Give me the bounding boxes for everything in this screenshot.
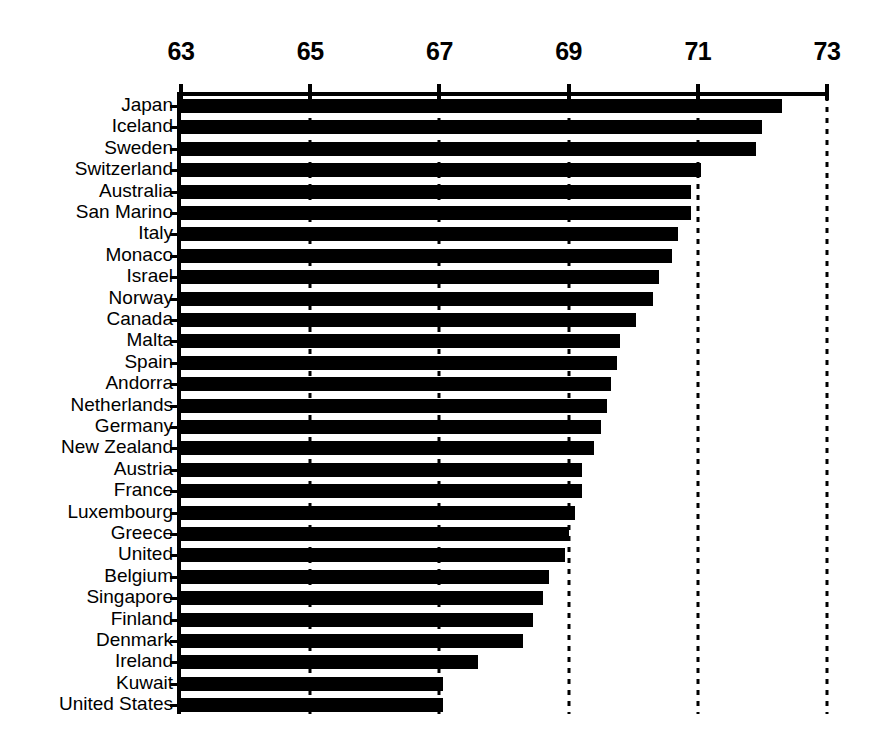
y-axis-tick — [170, 319, 181, 322]
category-label: Norway — [109, 288, 173, 307]
category-label: Switzerland — [75, 159, 173, 178]
y-axis-tick — [170, 362, 181, 365]
y-axis-tick — [170, 276, 181, 279]
category-label: Netherlands — [71, 395, 173, 414]
y-axis-tick — [170, 105, 181, 108]
bar-row — [181, 567, 827, 588]
bar — [181, 420, 601, 434]
bar-row — [181, 289, 827, 310]
y-axis-tick — [170, 640, 181, 643]
bar — [181, 377, 611, 391]
y-axis-tick — [170, 683, 181, 686]
bar — [181, 99, 782, 113]
x-axis-tick-labels: 636567697173 — [0, 36, 873, 70]
bar — [181, 506, 575, 520]
bar — [181, 677, 443, 691]
category-label: Andorra — [105, 373, 173, 392]
bar — [181, 270, 659, 284]
bar-row — [181, 481, 827, 502]
bar — [181, 206, 691, 220]
category-label: Japan — [121, 95, 173, 114]
bar — [181, 634, 523, 648]
y-axis-tick — [170, 661, 181, 664]
bar — [181, 591, 543, 605]
bar-row — [181, 331, 827, 352]
bar — [181, 570, 549, 584]
x-axis-tick-label: 71 — [684, 36, 711, 66]
y-axis-tick — [170, 576, 181, 579]
bar-row — [181, 310, 827, 331]
bar — [181, 249, 672, 263]
bar-row — [181, 182, 827, 203]
bar — [181, 227, 678, 241]
category-label: Australia — [99, 181, 173, 200]
bar-row — [181, 117, 827, 138]
category-label: Luxembourg — [67, 502, 173, 521]
category-label: Italy — [138, 223, 173, 242]
bar — [181, 313, 636, 327]
bar-row — [181, 160, 827, 181]
y-axis-tick — [170, 469, 181, 472]
bar-row — [181, 460, 827, 481]
bar-row — [181, 353, 827, 374]
x-axis-tick-label: 67 — [426, 36, 453, 66]
plot-area — [181, 92, 827, 714]
bar-chart: 636567697173 JapanIcelandSwedenSwitzerla… — [0, 0, 873, 754]
bar-row — [181, 438, 827, 459]
y-axis-tick — [170, 533, 181, 536]
bar — [181, 613, 533, 627]
category-label: Greece — [111, 523, 173, 542]
bar-row — [181, 96, 827, 117]
bar — [181, 463, 582, 477]
bar-row — [181, 503, 827, 524]
x-axis-tick-label: 65 — [297, 36, 324, 66]
bar-row — [181, 674, 827, 695]
category-label: Malta — [127, 330, 173, 349]
bar — [181, 185, 691, 199]
category-label: Monaco — [105, 245, 173, 264]
category-label: Canada — [106, 309, 173, 328]
category-label: Sweden — [104, 138, 173, 157]
x-axis-tick-label: 73 — [814, 36, 841, 66]
bar — [181, 484, 582, 498]
category-label: Denmark — [96, 630, 173, 649]
category-label: United States — [59, 694, 173, 713]
category-axis-labels: JapanIcelandSwedenSwitzerlandAustraliaSa… — [0, 92, 177, 714]
category-label: San Marino — [76, 202, 173, 221]
category-label: Israel — [127, 266, 173, 285]
bar-row — [181, 588, 827, 609]
bar — [181, 120, 762, 134]
bar-row — [181, 695, 827, 716]
category-label: United — [118, 544, 173, 563]
bar-row — [181, 652, 827, 673]
bar-row — [181, 267, 827, 288]
bar — [181, 356, 617, 370]
category-label: Kuwait — [116, 673, 173, 692]
bar-row — [181, 545, 827, 566]
bar — [181, 399, 607, 413]
bar — [181, 292, 653, 306]
category-label: France — [114, 480, 173, 499]
bar — [181, 441, 594, 455]
category-label: Austria — [114, 459, 173, 478]
bar-row — [181, 610, 827, 631]
bar — [181, 655, 478, 669]
bar — [181, 142, 756, 156]
category-label: New Zealand — [61, 437, 173, 456]
bar — [181, 527, 569, 541]
y-axis-tick — [170, 255, 181, 258]
y-axis-tick — [170, 597, 181, 600]
y-axis-tick — [170, 554, 181, 557]
category-label: Ireland — [115, 651, 173, 670]
y-axis-tick — [170, 447, 181, 450]
x-axis-tick-label: 63 — [168, 36, 195, 66]
y-axis-tick — [170, 148, 181, 151]
y-axis-tick — [170, 405, 181, 408]
category-label: Iceland — [112, 116, 173, 135]
x-axis-tick-label: 69 — [555, 36, 582, 66]
y-axis-tick — [170, 512, 181, 515]
y-axis-tick — [170, 126, 181, 129]
bar-row — [181, 246, 827, 267]
y-axis-tick — [170, 704, 181, 707]
bar-row — [181, 374, 827, 395]
